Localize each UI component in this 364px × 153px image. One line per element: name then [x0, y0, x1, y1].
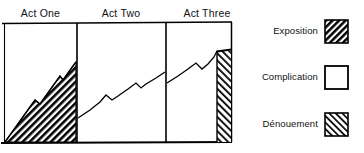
legend-label-complication: Complication [262, 71, 318, 82]
denouement-area-fill [217, 51, 231, 142]
act-labels: Act One Act Two Act Three [21, 7, 231, 19]
denouement-region [217, 50, 232, 143]
three-act-structure-figure: Act One Act Two Act Three [0, 0, 364, 153]
figure-root: Act One Act Two Act Three [0, 0, 364, 153]
legend-label-exposition: Exposition [273, 25, 318, 36]
legend-swatch-denouement [325, 113, 348, 136]
legend-swatch-complication [325, 66, 348, 89]
frame-baseline [1, 142, 232, 143]
legend-swatch-exposition [325, 20, 348, 43]
act-label-act-two: Act Two [102, 7, 141, 19]
act-label-act-one: Act One [21, 7, 60, 19]
act-label-act-three: Act Three [183, 7, 230, 19]
legend-label-denouement: Dénouement [263, 118, 319, 129]
